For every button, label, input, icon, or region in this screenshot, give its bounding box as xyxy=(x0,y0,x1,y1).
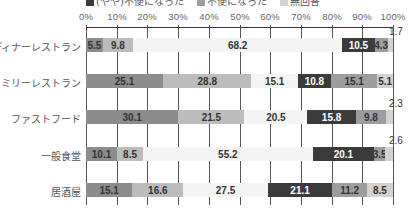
bar-segment: 68.2 xyxy=(133,38,342,52)
bar-segment: 8.5 xyxy=(117,147,143,161)
bar-segment: 15.1 xyxy=(86,183,132,197)
bar-segment: 10.1 xyxy=(86,147,117,161)
bar-segment: 21.5 xyxy=(178,110,244,124)
category-label: 一般食堂 xyxy=(41,148,81,163)
bar-segment xyxy=(385,147,393,161)
stacked-bar: 5.59.868.210.54.3 xyxy=(86,38,393,52)
bar-segment: 9.8 xyxy=(103,38,133,52)
bar-segment: 20.1 xyxy=(313,147,375,161)
bar-segment: 15.1 xyxy=(251,74,297,88)
x-tick-label: 0% xyxy=(79,11,93,22)
bar-segment: 11.2 xyxy=(332,183,366,197)
bar-segment xyxy=(386,110,393,124)
x-tick-label: 10% xyxy=(107,11,127,22)
bar-segment: 3.5 xyxy=(374,147,385,161)
bar-segment: 28.8 xyxy=(163,74,251,88)
outside-value-label: 2.3 xyxy=(389,98,403,109)
bar-segment: 8.5 xyxy=(367,183,393,197)
bar-segment: 16.6 xyxy=(132,183,183,197)
category-label: ファミリーレストラン xyxy=(0,75,81,90)
x-tick-label: 30% xyxy=(168,11,188,22)
category-label: 居酒屋 xyxy=(51,184,81,199)
stacked-bar: 30.121.520.515.89.8 xyxy=(86,110,393,124)
stacked-bar-chart: 0%10%20%30%40%50%60%70%80%90%100%ディナーレスト… xyxy=(0,0,413,210)
bar-segment: 10.5 xyxy=(342,38,374,52)
stacked-bar: 25.128.815.110.815.15.1 xyxy=(86,74,393,88)
category-label: ファストフード xyxy=(11,111,81,126)
stacked-bar: 10.18.555.220.13.5 xyxy=(86,147,393,161)
bar-segment: 21.1 xyxy=(268,183,333,197)
stacked-bar: 15.116.627.521.111.28.5 xyxy=(86,183,393,197)
category-label: ディナーレストラン xyxy=(0,39,81,54)
outside-value-label: 2.6 xyxy=(389,135,403,146)
x-tick-label: 60% xyxy=(260,11,280,22)
bar-segment: 15.8 xyxy=(307,110,356,124)
gridline xyxy=(393,25,394,205)
bar-segment: 27.5 xyxy=(183,183,267,197)
bar-segment: 20.5 xyxy=(244,110,307,124)
x-tick-label: 20% xyxy=(137,11,157,22)
bar-segment: 5.5 xyxy=(86,38,103,52)
x-tick-label: 70% xyxy=(291,11,311,22)
bar-segment: 9.8 xyxy=(356,110,386,124)
bar-segment: 30.1 xyxy=(86,110,178,124)
bar-segment: 4.3 xyxy=(375,38,388,52)
outside-value-label: 1.7 xyxy=(389,26,403,37)
bar-segment xyxy=(388,38,393,52)
x-tick-label: 40% xyxy=(199,11,219,22)
x-tick-label: 100% xyxy=(380,11,405,22)
bar-segment: 25.1 xyxy=(86,74,163,88)
x-axis-line xyxy=(86,27,393,28)
bar-segment: 15.1 xyxy=(331,74,377,88)
x-tick-label: 90% xyxy=(352,11,372,22)
x-tick-label: 50% xyxy=(230,11,250,22)
x-tick-label: 80% xyxy=(322,11,342,22)
bar-segment: 55.2 xyxy=(143,147,312,161)
bar-segment: 10.8 xyxy=(298,74,331,88)
bar-segment: 5.1 xyxy=(377,74,393,88)
